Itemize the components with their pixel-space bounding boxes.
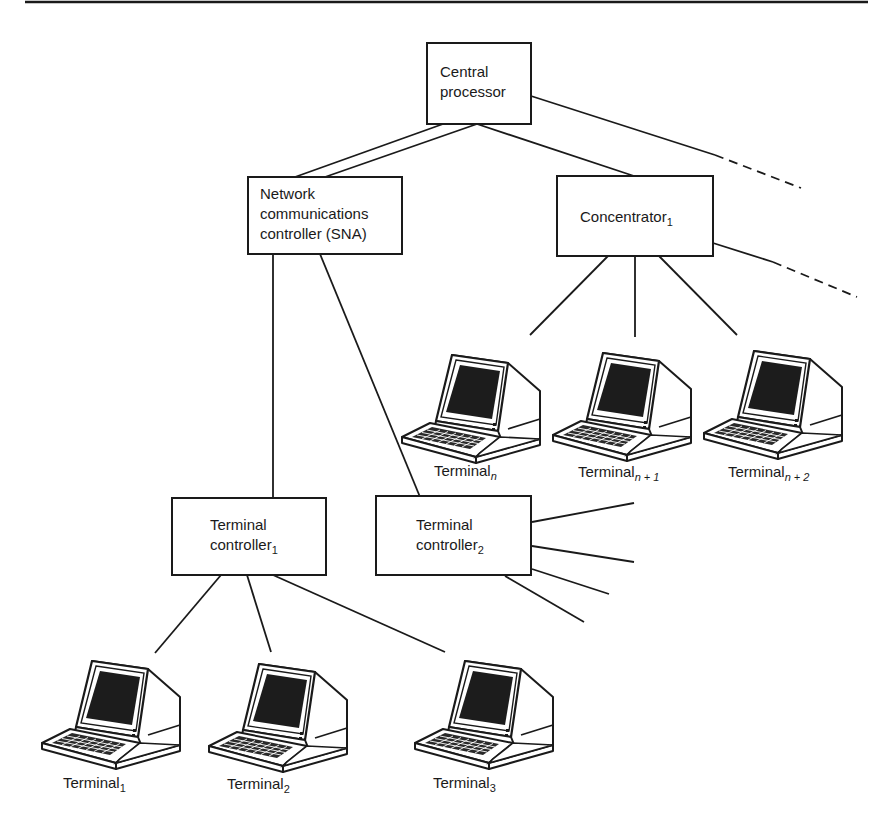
link-tc2-out-1 <box>532 503 634 522</box>
node-network-communications-controller: Network communications controller (SNA) <box>248 177 402 254</box>
link-cp-ncc-a <box>295 124 443 177</box>
link-concentrator-terminal-n2 <box>659 256 737 335</box>
link-tc1-terminal-1 <box>155 575 221 653</box>
terminal-3: Terminal3 <box>415 661 553 794</box>
ncc-label-line3: controller (SNA) <box>260 225 367 242</box>
terminal-2: Terminal2 <box>209 664 347 795</box>
network-diagram: Central processor Network communications… <box>0 0 894 825</box>
link-concentrator-continuation-dashed <box>773 262 857 297</box>
tc1-label-line1: Terminal <box>210 516 267 533</box>
terminal-n-plus-2-label: Terminaln + 2 <box>728 463 809 483</box>
terminal-n: Terminaln <box>402 355 540 482</box>
ncc-label-line2: communications <box>260 205 368 222</box>
central-processor-label-line1: Central <box>440 63 488 80</box>
link-tc1-terminal-2 <box>247 575 271 652</box>
link-cp-ncc-b <box>325 124 477 177</box>
node-terminal-controller-2: Terminal controller2 <box>376 496 531 575</box>
node-central-processor: Central processor <box>427 43 531 124</box>
link-concentrator-terminal-n <box>530 256 608 335</box>
terminal-1-label: Terminal1 <box>63 774 126 794</box>
terminal-computer-icon <box>553 353 691 461</box>
ncc-label-line1: Network <box>260 185 316 202</box>
terminal-1: Terminal1 <box>42 661 180 794</box>
terminal-n-plus-1-label: Terminaln + 1 <box>578 463 659 483</box>
terminal-2-label: Terminal2 <box>227 775 290 795</box>
terminal-computer-icon <box>402 355 540 463</box>
link-tc1-terminal-3 <box>273 575 445 652</box>
terminal-computer-icon <box>704 351 842 459</box>
terminal-computer-icon <box>209 664 347 772</box>
link-cp-continuation-dashed <box>715 155 801 188</box>
terminal-n-label: Terminaln <box>434 462 497 482</box>
terminal-computer-icon <box>42 661 180 769</box>
link-concentrator-continuation <box>713 243 773 262</box>
link-tc2-out-3 <box>532 569 609 594</box>
link-cp-concentrator <box>477 124 634 176</box>
link-ncc-tc2 <box>320 254 420 497</box>
central-processor-label-line2: processor <box>440 83 506 100</box>
node-terminal-controller-1: Terminal controller1 <box>172 498 326 575</box>
terminal-n-plus-1: Terminaln + 1 <box>553 353 691 483</box>
node-concentrator: Concentrator1 <box>557 176 713 256</box>
link-tc2-out-2 <box>532 546 634 562</box>
terminal-3-label: Terminal3 <box>433 774 496 794</box>
link-cp-continuation <box>531 96 715 155</box>
tc2-label-line1: Terminal <box>416 516 473 533</box>
terminal-n-plus-2: Terminaln + 2 <box>704 351 842 483</box>
terminal-computer-icon <box>415 661 553 769</box>
